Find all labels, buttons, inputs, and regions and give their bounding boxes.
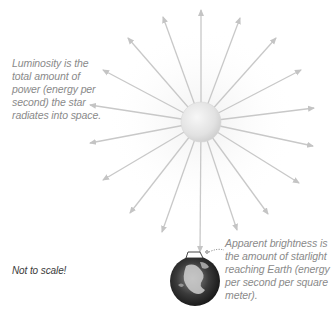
earth [170,256,220,306]
luminosity-caption: Luminosity is the total amount of power … [12,57,107,122]
not-to-scale-note: Not to scale! [12,264,66,277]
star [181,102,221,142]
pointer-dotted-line [209,249,224,252]
detector-dot [206,251,209,254]
detector-icon [186,252,203,258]
apparent-brightness-caption: Apparent brightness is the amount of sta… [225,237,330,302]
